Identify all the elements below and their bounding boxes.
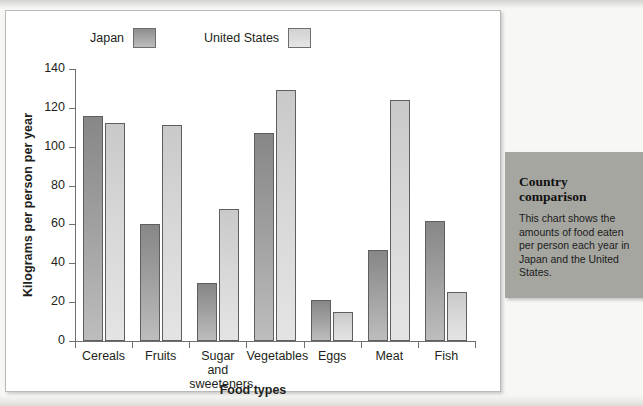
bar-japan[interactable] xyxy=(311,300,331,341)
y-axis-tick-label: 140 xyxy=(44,61,65,75)
y-axis-tick-label: 100 xyxy=(44,139,65,153)
x-axis-label-line: Fruits xyxy=(132,349,189,363)
x-axis-title: Food types xyxy=(6,383,500,397)
legend-swatch-japan xyxy=(133,28,156,48)
x-axis-tick xyxy=(189,342,190,348)
bar-united-states[interactable] xyxy=(276,90,296,341)
bar-group xyxy=(140,69,182,341)
y-axis-tick-label: 40 xyxy=(51,255,65,269)
x-axis-label: Cereals xyxy=(75,349,132,363)
y-axis-tick-label: 20 xyxy=(51,294,65,308)
y-axis-tick: 80 xyxy=(69,186,75,187)
x-axis-label: Vegetables xyxy=(246,349,303,363)
legend-item-united-states: United States xyxy=(204,28,311,48)
y-axis-tick-label: 0 xyxy=(58,333,65,347)
legend-item-japan: Japan xyxy=(90,28,156,48)
x-axis-label: Fruits xyxy=(132,349,189,363)
x-axis-tick xyxy=(75,342,76,348)
bar-group xyxy=(83,69,125,341)
bar-japan[interactable] xyxy=(254,133,274,341)
y-axis-tick: 100 xyxy=(69,147,75,148)
x-axis-label-line: Fish xyxy=(418,349,475,363)
page-top-edge xyxy=(0,0,643,9)
bar-japan[interactable] xyxy=(83,116,103,341)
y-axis-tick-label: 80 xyxy=(51,178,65,192)
x-axis-line xyxy=(75,341,476,342)
bar-japan[interactable] xyxy=(140,224,160,341)
bar-group xyxy=(311,69,353,341)
bar-japan[interactable] xyxy=(368,250,388,341)
x-axis-label: Fish xyxy=(418,349,475,363)
y-axis-title: Kilograms per person per year xyxy=(20,69,36,341)
y-axis-tick: 60 xyxy=(69,224,75,225)
panel-body: This chart shows the amounts of food eat… xyxy=(519,212,631,280)
y-axis-tick: 140 xyxy=(69,69,75,70)
panel-title: Country comparison xyxy=(519,174,631,204)
legend-label-united-states: United States xyxy=(204,31,279,45)
x-axis-label: Sugar andsweeteners xyxy=(189,349,246,391)
x-axis-tick xyxy=(361,342,362,348)
x-axis-tick xyxy=(132,342,133,348)
bar-group xyxy=(368,69,410,341)
bar-united-states[interactable] xyxy=(105,123,125,341)
y-axis-tick: 40 xyxy=(69,263,75,264)
legend-label-japan: Japan xyxy=(90,31,124,45)
bar-group xyxy=(197,69,239,341)
bar-japan[interactable] xyxy=(425,221,445,341)
chart-card: Japan United States Kilograms per person… xyxy=(5,10,501,392)
x-axis-label: Eggs xyxy=(304,349,361,363)
bar-group xyxy=(254,69,296,341)
country-comparison-panel: Country comparison This chart shows the … xyxy=(505,152,643,298)
x-axis-label-line: Cereals xyxy=(75,349,132,363)
x-axis-label: Meat xyxy=(361,349,418,363)
plot-area: 020406080100120140 xyxy=(75,69,475,341)
x-axis-label-line: Sugar and xyxy=(189,349,246,377)
bar-japan[interactable] xyxy=(197,283,217,341)
bar-united-states[interactable] xyxy=(162,125,182,341)
x-axis-tick xyxy=(246,342,247,348)
y-axis-tick-label: 120 xyxy=(44,100,65,114)
chart-legend: Japan United States xyxy=(90,28,311,48)
bar-group xyxy=(425,69,467,341)
x-axis-label-line: Vegetables xyxy=(246,349,303,363)
y-axis-title-text: Kilograms per person per year xyxy=(21,113,35,297)
y-axis-tick: 120 xyxy=(69,108,75,109)
x-axis-tick xyxy=(304,342,305,348)
bar-united-states[interactable] xyxy=(390,100,410,341)
x-axis-label-line: sweeteners xyxy=(189,377,246,391)
x-axis-label-line: Eggs xyxy=(304,349,361,363)
y-axis-tick: 20 xyxy=(69,302,75,303)
x-axis-tick xyxy=(418,342,419,348)
bar-united-states[interactable] xyxy=(447,292,467,341)
bar-united-states[interactable] xyxy=(333,312,353,341)
legend-swatch-united-states xyxy=(288,28,311,48)
y-axis-tick-label: 60 xyxy=(51,216,65,230)
bar-united-states[interactable] xyxy=(219,209,239,341)
x-axis-label-line: Meat xyxy=(361,349,418,363)
x-axis-tick xyxy=(475,342,476,348)
